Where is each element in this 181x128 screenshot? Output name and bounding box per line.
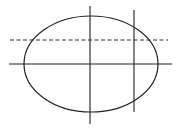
ellipse-diagram <box>0 0 181 128</box>
